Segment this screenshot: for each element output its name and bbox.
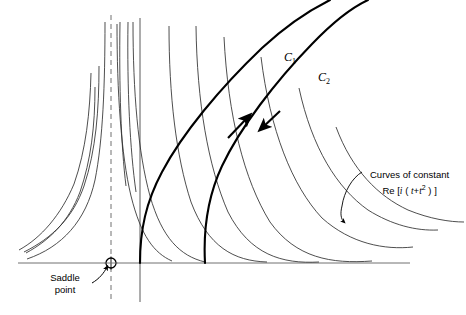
contour-right-3 xyxy=(169,26,267,262)
saddle-label-line-1: Saddle xyxy=(37,272,93,284)
contour-left-5 xyxy=(120,22,126,186)
curve-label-c1: C1 xyxy=(284,50,296,66)
saddle-point-label: Saddle point xyxy=(37,272,93,296)
contour-right-1 xyxy=(117,24,172,261)
figure-canvas: C1 C2 Curves of constant Re [i ( t+t2 ) … xyxy=(0,0,466,315)
saddle-leader-line xyxy=(92,267,107,283)
contour-right-5 xyxy=(224,37,372,262)
contour-annotation: Curves of constant Re [i ( t+t2 ) ] xyxy=(370,169,449,197)
curve-label-c2: C2 xyxy=(318,70,330,86)
contour-left-4 xyxy=(27,22,105,259)
annotation-close-paren: ) ] xyxy=(426,185,437,196)
direction-arrows xyxy=(228,111,280,138)
annotation-re-text: Re [ xyxy=(382,185,399,196)
contour-left-2 xyxy=(26,87,95,253)
constant-re-curves-left xyxy=(19,22,136,259)
annotation-formula: Re [i ( t+t2 ) ] xyxy=(370,182,449,198)
curve-c2-path xyxy=(205,0,368,263)
saddle-label-line-2: point xyxy=(37,284,93,296)
contour-left-6 xyxy=(128,22,136,192)
contour-right-6 xyxy=(261,57,413,248)
contour-left-3 xyxy=(19,73,91,250)
contour-right-4 xyxy=(196,26,319,262)
steepest-descent-curves xyxy=(140,0,368,263)
annotation-line-1: Curves of constant xyxy=(370,169,449,182)
annotation-open-paren: ( xyxy=(403,185,411,196)
diagram-svg xyxy=(0,0,466,315)
contour-right-7 xyxy=(299,88,438,230)
annotation-leader-line xyxy=(341,172,362,222)
